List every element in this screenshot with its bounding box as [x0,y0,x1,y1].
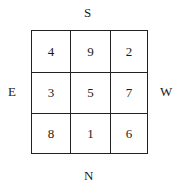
direction-label-west: W [160,85,172,98]
direction-label-east: E [8,85,16,98]
grid-cell: 2 [111,31,147,73]
grid-cell: 6 [111,114,147,153]
direction-label-north: N [84,169,93,182]
grid-cell: 9 [71,31,111,73]
grid-cell: 3 [32,73,71,114]
grid-cell: 1 [71,114,111,153]
grid-cell: 4 [32,31,71,73]
magic-square-grid: 4 9 2 3 5 7 8 1 6 [31,30,148,154]
grid-cell: 8 [32,114,71,153]
grid-cell: 7 [111,73,147,114]
grid-cell: 5 [71,73,111,114]
direction-label-south: S [84,6,91,19]
